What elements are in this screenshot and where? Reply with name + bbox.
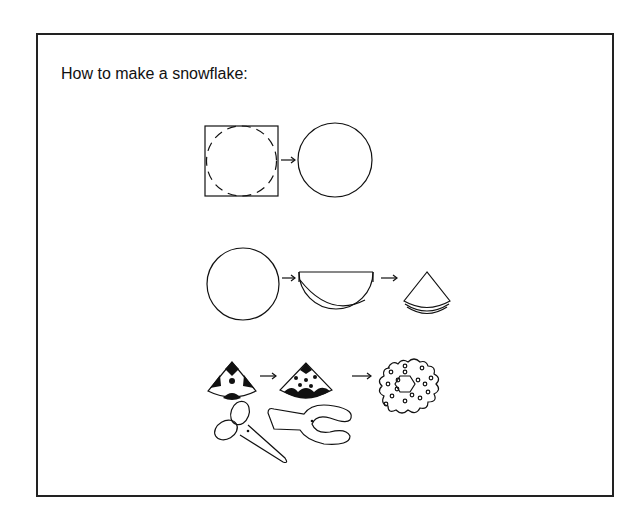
hole-punch-icon xyxy=(268,405,351,444)
step3-wedge-with-holes xyxy=(280,363,332,399)
step3-arrow2-icon xyxy=(352,373,371,379)
step1-result-circle xyxy=(298,123,372,197)
step2-circle xyxy=(207,248,279,320)
step3-arrow-icon xyxy=(260,373,276,379)
step2-semicircle-fold xyxy=(299,272,373,309)
step2-wedge xyxy=(404,272,450,314)
step2-arrow2-icon xyxy=(381,275,397,281)
step1-arrow-icon xyxy=(281,157,295,163)
scissors-icon xyxy=(211,399,286,463)
snowflake-result xyxy=(379,359,438,413)
step1-square-with-dashed-circle xyxy=(205,126,278,196)
step3-wedge-cut-pattern xyxy=(208,362,256,400)
step2-arrow-icon xyxy=(282,275,295,281)
